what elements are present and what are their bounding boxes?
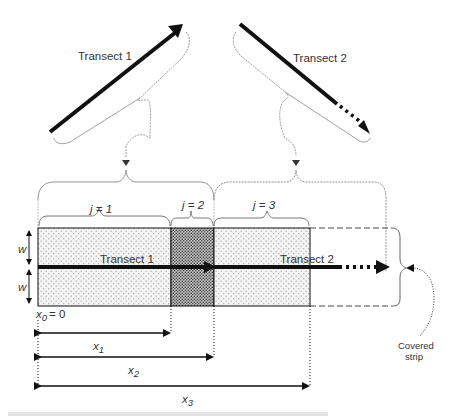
segment-brace-j2	[171, 211, 213, 226]
transect-1-brace	[126, 32, 189, 158]
strip-transect-1-label: Transect 1	[100, 253, 154, 265]
transect-2-dotted-line	[340, 106, 362, 123]
strip-transect-2-label: Transect 2	[280, 253, 334, 265]
segment-brace-j3	[214, 211, 309, 226]
transect-1-group-brace	[38, 170, 214, 200]
upper-w-label: w	[18, 243, 27, 255]
half-width-markers: w w	[18, 231, 29, 303]
transect-2-line	[240, 24, 337, 104]
x2-label: x2	[127, 364, 140, 379]
top-transect-1: Transect 1	[50, 24, 189, 166]
strip-transect-2-arrowhead-icon	[376, 260, 390, 274]
covered-strip-brace	[392, 228, 406, 306]
down-arrow-icon	[292, 160, 300, 166]
top-transect-2: Transect 2	[233, 24, 370, 166]
lower-w-label: w	[18, 281, 27, 293]
pointer-arrowhead-icon	[406, 264, 414, 272]
transect-2-brace-lower	[285, 92, 370, 142]
segment-braces: j = 1 j = 2 j = 3	[39, 199, 309, 226]
clipped-caption	[8, 412, 328, 416]
covered-strip-pointer	[412, 268, 434, 336]
segment-label-j1: j = 1	[88, 203, 112, 215]
down-arrow-icon	[122, 160, 130, 166]
covered-strip-callout: Covered strip	[398, 264, 434, 362]
origin-label: x0= 0	[35, 308, 65, 323]
x1-label: x1	[92, 340, 104, 355]
distance-arrows: x1 x2 x3	[40, 333, 308, 408]
transect-2-brace	[233, 32, 296, 156]
segment-label-j3: j = 3	[251, 199, 276, 211]
covered-strip-label-line1: Covered	[398, 340, 434, 351]
segment-label-j2: j = 2	[180, 199, 205, 211]
x3-label: x3	[181, 393, 194, 408]
transect-2-arrowhead-icon	[358, 120, 370, 134]
transect-2-label: Transect 2	[293, 52, 347, 64]
distance-guides	[38, 306, 310, 386]
transect-1-label: Transect 1	[78, 50, 132, 62]
covered-strip-label-line2: strip	[405, 351, 423, 362]
transect-strip-diagram: Transect 1 Transect 2 j = 1 j = 2 j = 3	[0, 0, 454, 416]
